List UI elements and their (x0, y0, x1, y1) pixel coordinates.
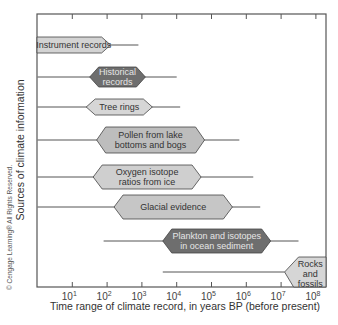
record-bar: Glacial evidence (38, 195, 261, 219)
record-bar: Oxygen isotoperatios from ice (38, 165, 254, 189)
climate-record-chart: 101102103104105106107108 Instrument reco… (0, 0, 338, 325)
record-bar: Rocksandfossils (163, 257, 326, 289)
record-bar: Historicalrecords (38, 67, 177, 87)
record-label: fossils (298, 279, 324, 289)
record-label: Glacial evidence (140, 202, 206, 212)
record-label: Historical (99, 67, 136, 77)
record-label: Rocks (298, 259, 324, 269)
record-label: Tree rings (99, 102, 140, 112)
x-axis-ticks: 101102103104105106107108 (62, 14, 321, 302)
record-bar: Tree rings (38, 99, 181, 115)
x-axis-title: Time range of climate record, in years B… (50, 300, 320, 312)
record-label: Instrument records (36, 40, 112, 50)
record-label: and (303, 269, 318, 279)
record-bar: Instrument records (36, 37, 138, 53)
record-bar: Pollen from lakebottoms and bogs (38, 127, 240, 153)
record-label: Plankton and isotopes (172, 231, 261, 241)
record-label: ratios from ice (119, 177, 176, 187)
record-label: records (103, 77, 134, 87)
record-bars: Instrument recordsHistoricalrecordsTree … (36, 37, 326, 289)
y-axis-title: Sources of climate information (14, 79, 26, 220)
record-label: Oxygen isotope (116, 167, 179, 177)
record-label: in ocean sediment (180, 241, 254, 251)
record-label: bottoms and bogs (115, 140, 187, 150)
record-label: Pollen from lake (118, 130, 183, 140)
record-bar: Plankton and isotopesin ocean sediment (104, 229, 299, 253)
copyright-credit: © Cengage Learning® All Rights Reserved. (6, 165, 14, 290)
